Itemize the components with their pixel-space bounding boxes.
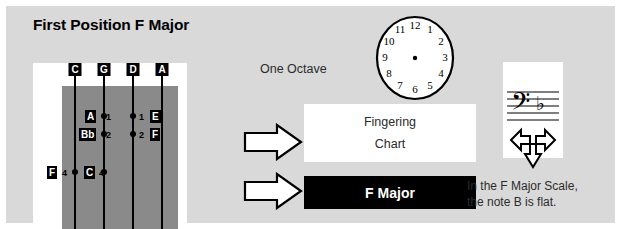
- fingering-chart-line1: Fingering: [364, 115, 416, 129]
- fingerboard-panel: CGDAA1E1Bb2F2F4C4: [33, 63, 187, 229]
- note-chip-4: F: [47, 166, 57, 179]
- clock-svg: 121234567891011: [374, 15, 456, 101]
- string-a: [161, 75, 163, 229]
- clock-numeral-9: 9: [382, 51, 388, 63]
- clock-numeral-6: 6: [412, 83, 418, 95]
- finger-number-4: 4: [62, 168, 67, 178]
- string-label-c: C: [69, 63, 82, 76]
- one-octave-label: One Octave: [260, 62, 327, 76]
- finger-dot-3: [130, 131, 136, 137]
- clock-numeral-8: 8: [386, 67, 392, 79]
- clock-numeral-7: 7: [397, 79, 403, 91]
- clock-numeral-10: 10: [384, 35, 396, 47]
- string-g: [103, 75, 105, 229]
- page-title: First Position F Major: [33, 16, 189, 34]
- finger-number-3: 2: [139, 130, 144, 140]
- fingering-chart-line2: Chart: [375, 137, 406, 151]
- string-label-g: G: [98, 63, 111, 76]
- clock-numeral-4: 4: [438, 67, 444, 79]
- arrow-left-right-down-icon: [509, 126, 557, 170]
- clock-center-dot: [413, 56, 417, 60]
- string-c: [74, 75, 76, 229]
- arrow-right-icon-fingering: [243, 123, 303, 161]
- clock-numeral-3: 3: [442, 51, 448, 63]
- string-label-a: A: [156, 63, 169, 76]
- note-chip-1: E: [150, 110, 161, 123]
- finger-dot-0: [101, 113, 107, 119]
- lesson-card: First Position F Major CGDAA1E1Bb2F2F4C4…: [6, 6, 615, 223]
- string-d: [132, 75, 134, 229]
- scale-note-caption: In the F Major Scale, the note B is flat…: [467, 178, 621, 210]
- key-name-box[interactable]: F Major: [304, 176, 476, 209]
- scale-note-line1: In the F Major Scale,: [467, 178, 621, 194]
- fingering-chart-box[interactable]: Fingering Chart: [304, 104, 476, 162]
- scale-note-line2: the note B is flat.: [467, 194, 621, 210]
- flat-sign-icon: ♭: [536, 92, 545, 114]
- clock-numeral-2: 2: [438, 35, 444, 47]
- arrow-right-icon-fmajor: [243, 172, 303, 210]
- clock-numeral-11: 11: [395, 23, 406, 35]
- finger-dot-2: [101, 131, 107, 137]
- clock-numeral-1: 1: [427, 23, 433, 35]
- clock-face: 121234567891011: [374, 15, 456, 101]
- note-chip-0: A: [85, 110, 96, 123]
- screenshot-root: First Position F Major CGDAA1E1Bb2F2F4C4…: [0, 0, 621, 229]
- string-label-d: D: [127, 63, 140, 76]
- note-chip-5: C: [84, 166, 95, 179]
- finger-dot-5: [101, 169, 107, 175]
- note-chip-2: Bb: [79, 128, 96, 141]
- note-chip-3: F: [150, 128, 160, 141]
- finger-number-1: 1: [139, 112, 144, 122]
- bass-clef-icon: 𝄢: [511, 87, 530, 122]
- clock-numeral-5: 5: [427, 79, 433, 91]
- finger-dot-4: [72, 169, 78, 175]
- clock-numeral-12: 12: [410, 19, 421, 31]
- finger-dot-1: [130, 113, 136, 119]
